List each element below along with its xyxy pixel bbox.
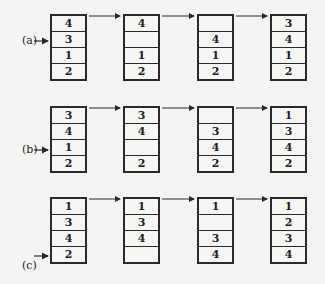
row-label-b: (b) [22,143,38,156]
stack-c-4: 1 2 3 4 [270,197,307,264]
stack-cell: 4 [199,31,232,47]
stack-cell: 1 [52,199,85,214]
stack-cell: 4 [52,230,85,246]
stack-cell [125,139,158,155]
stack-a-4: 3 4 1 2 [270,14,307,81]
stack-b-4: 1 3 4 2 [270,106,307,173]
stack-cell [125,246,158,262]
stack-cell: 1 [125,47,158,63]
stack-cell: 1 [272,108,305,123]
stack-cell: 4 [272,139,305,155]
row-label-c: (c) [22,259,37,272]
stack-cell: 4 [125,16,158,31]
stack-cell: 4 [199,246,232,262]
stack-cell: 3 [272,123,305,139]
stack-cell: 3 [272,230,305,246]
stack-cell [199,108,232,123]
stack-cell [199,16,232,31]
stack-c-1: 1 3 4 2 [50,197,87,264]
stack-cell: 3 [199,230,232,246]
stack-a-1: 4 3 1 2 [50,14,87,81]
stack-c-3: 1 3 4 [197,197,234,264]
stack-cell: 3 [52,31,85,47]
stack-b-1: 3 4 1 2 [50,106,87,173]
stack-cell: 2 [52,63,85,79]
stack-cell: 4 [52,16,85,31]
stack-cell: 4 [272,31,305,47]
stack-cell [125,31,158,47]
stack-cell: 1 [272,199,305,214]
stack-cell: 2 [52,155,85,171]
stack-b-2: 3 4 2 [123,106,160,173]
stack-cell: 4 [125,230,158,246]
stack-cell: 2 [199,63,232,79]
stack-cell: 1 [199,47,232,63]
stack-a-2: 4 1 2 [123,14,160,81]
stack-cell: 3 [52,214,85,230]
stack-c-2: 1 3 4 [123,197,160,264]
stack-cell: 3 [52,108,85,123]
stack-cell: 1 [125,199,158,214]
stack-cell: 2 [125,63,158,79]
stack-cell: 2 [199,155,232,171]
stack-cell: 2 [272,63,305,79]
stack-cell: 1 [52,47,85,63]
stack-cell: 4 [52,123,85,139]
stack-b-3: 3 4 2 [197,106,234,173]
row-label-a: (a) [22,34,37,47]
stack-cell [199,214,232,230]
stack-cell: 2 [272,155,305,171]
stack-cell: 1 [199,199,232,214]
stack-cell: 3 [125,108,158,123]
stack-cell: 4 [125,123,158,139]
stack-cell: 4 [272,246,305,262]
stack-cell: 1 [52,139,85,155]
stack-cell: 2 [52,246,85,262]
stack-cell: 4 [199,139,232,155]
stack-cell: 3 [125,214,158,230]
stack-cell: 3 [199,123,232,139]
stack-cell: 3 [272,16,305,31]
stack-cell: 1 [272,47,305,63]
stack-cell: 2 [125,155,158,171]
stack-cell: 2 [272,214,305,230]
stack-a-3: 4 1 2 [197,14,234,81]
